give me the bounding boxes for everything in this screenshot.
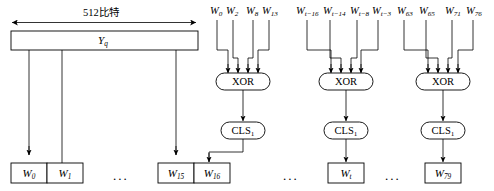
word-box-label-w16: W16 [194,167,230,179]
yq-block-label: Yq [98,34,108,46]
xor1-input-label-2: W8 [246,6,258,17]
w-main: W [397,5,406,16]
w-main: W [226,5,235,16]
w-sub: 71 [454,10,461,18]
xor3-input-label-2: W71 [445,6,461,17]
diagram-line-layer [0,0,494,191]
cls-sub: 1 [354,130,358,138]
w-sub: 8 [255,10,259,18]
cls-label-3: CLS1 [421,125,465,136]
w-main: W [350,5,359,16]
xor3-input-label-0: W63 [397,6,413,17]
w-sub: 76 [475,10,482,18]
w-main: W [262,5,271,16]
w-main: W [340,167,349,179]
w-main: W [372,5,381,16]
w-main: W [59,167,68,179]
w-sub: 0 [32,173,36,181]
xor-group-3-wires [404,20,473,162]
xor3-input-label-1: W65 [419,6,435,17]
w-sub: 65 [428,10,435,18]
w-sub: 79 [444,173,451,181]
w-main: W [296,5,305,16]
xor2-input-label-0: Wt−16 [296,6,319,17]
w-sub: 15 [177,173,184,181]
w-sub: t−3 [381,10,391,18]
xor-group-2-wires [307,20,378,162]
word-box-label-w15: W15 [158,167,194,179]
xor3-input-label-3: W76 [466,6,482,17]
word-box-label-wt: Wt [328,167,364,179]
xor-group-1-wires [209,20,269,162]
cls-main: CLS [232,125,251,136]
w-sub: 1 [68,173,72,181]
xor-label-3: XOR [416,76,470,87]
ellipsis-bottom-2: ... [283,168,299,184]
w-main: W [204,167,213,179]
w-sub: t−16 [305,10,319,18]
xor1-input-label-1: W2 [226,6,238,17]
xor-label-1: XOR [216,76,270,87]
bit-width-label: 512比特 [83,4,119,19]
ellipsis-bottom-1: ... [113,168,129,184]
word-box-label-w1: W1 [47,167,83,179]
w-sub: 13 [271,10,278,18]
word-box-label-w0: W0 [11,167,47,179]
cls-main: CLS [335,125,354,136]
w-main: W [246,5,255,16]
yq-sub: q [104,40,108,48]
xor1-input-label-3: W13 [262,6,278,17]
w-sub: 63 [406,10,413,18]
w-main: W [210,5,219,16]
cls-sub: 1 [451,130,455,138]
w-main: W [419,5,428,16]
w-main: W [435,167,444,179]
w-main: W [323,5,332,16]
w-main: W [168,167,177,179]
w-sub: 0 [219,10,223,18]
w-sub: 16 [213,173,220,181]
xor2-input-label-3: Wt−3 [372,6,391,17]
cls-sub: 1 [251,130,255,138]
word-box-label-w79: W79 [425,167,461,179]
w-sub: t [350,173,352,181]
sha-message-schedule-diagram: 512比特 Yq W0 W2 W8 W13 Wt−16 Wt−14 Wt−8 W… [0,0,494,191]
w-main: W [23,167,32,179]
w-main: W [445,5,454,16]
w-sub: 2 [235,10,239,18]
cls-label-2: CLS1 [324,125,368,136]
cls-label-1: CLS1 [221,125,265,136]
w-main: W [466,5,475,16]
xor2-input-label-2: Wt−8 [350,6,369,17]
w-sub: t−8 [359,10,369,18]
xor-label-2: XOR [319,76,373,87]
ellipsis-bottom-3: ... [385,168,401,184]
w-sub: t−14 [332,10,346,18]
xor2-input-label-1: Wt−14 [323,6,346,17]
cls-main: CLS [432,125,451,136]
xor1-input-label-0: W0 [210,6,222,17]
